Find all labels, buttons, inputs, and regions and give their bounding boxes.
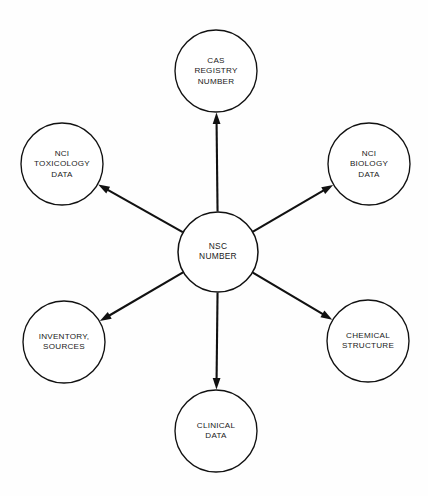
- node-nci-biology-data[interactable]: NCIBIOLOGYDATA: [328, 123, 410, 205]
- node-nsc-number-label-line-2: NUMBER: [199, 251, 237, 261]
- edge-nsc-to-clinical-shaft: [217, 292, 218, 379]
- edge-nsc-to-inventory-arrowhead: [100, 312, 112, 321]
- edge-nsc-to-toxicology: [98, 184, 183, 232]
- node-nsc-number[interactable]: NSCNUMBER: [178, 212, 258, 292]
- node-chemical-structure-label-line-2: STRUCTURE: [342, 341, 395, 350]
- diagram-canvas: NSCNUMBERCASREGISTRYNUMBERNCITOXICOLOGYD…: [0, 0, 428, 496]
- node-chemical-structure[interactable]: CHEMICALSTRUCTURE: [327, 300, 409, 382]
- node-inventory-sources-label-line-1: INVENTORY,: [39, 332, 90, 341]
- node-nci-biology-data-label-line-3: DATA: [358, 170, 380, 179]
- node-cas-registry-number-label-line-3: NUMBER: [198, 77, 235, 86]
- edge-nsc-to-clinical: [213, 292, 221, 389]
- node-clinical-data[interactable]: CLINICALDATA: [175, 390, 257, 472]
- edge-nsc-to-cas-shaft: [217, 122, 218, 211]
- node-clinical-data-label-line-2: DATA: [205, 431, 227, 440]
- node-nci-biology-data-label-line-1: NCI: [362, 149, 377, 158]
- edge-nsc-to-inventory-shaft: [108, 272, 183, 316]
- edge-nsc-to-toxicology-arrowhead: [98, 184, 110, 193]
- node-inventory-sources-label-line-2: SOURCES: [43, 342, 85, 351]
- diagram-svg: NSCNUMBERCASREGISTRYNUMBERNCITOXICOLOGYD…: [0, 0, 428, 496]
- edge-nsc-to-biology-arrowhead: [321, 185, 333, 194]
- node-chemical-structure-label-line-1: CHEMICAL: [346, 331, 390, 340]
- node-nci-toxicology-data-label-line-1: NCI: [55, 149, 70, 158]
- edge-nsc-to-cas: [213, 112, 221, 211]
- edge-nsc-to-biology-shaft: [253, 190, 325, 232]
- node-cas-registry-number-label-line-1: CAS: [207, 56, 225, 65]
- edge-nsc-to-cas-arrowhead: [213, 112, 221, 124]
- node-nci-biology-data-label-line-2: BIOLOGY: [350, 159, 389, 168]
- edge-nsc-to-clinical-arrowhead: [213, 378, 221, 390]
- node-nci-toxicology-data-label-line-3: DATA: [51, 170, 73, 179]
- node-cas-registry-number-label-line-2: REGISTRY: [194, 66, 238, 75]
- nodes-layer: NSCNUMBERCASREGISTRYNUMBERNCITOXICOLOGYD…: [21, 30, 410, 472]
- node-inventory-sources[interactable]: INVENTORY,SOURCES: [23, 301, 105, 383]
- node-nsc-number-label-line-1: NSC: [209, 241, 227, 251]
- edge-nsc-to-inventory: [100, 272, 183, 321]
- edge-nsc-to-chemical: [253, 273, 332, 320]
- edge-nsc-to-chemical-shaft: [253, 273, 324, 315]
- node-nci-toxicology-data-label-line-2: TOXICOLOGY: [34, 159, 90, 168]
- edge-nsc-to-chemical-arrowhead: [320, 311, 332, 320]
- node-nci-toxicology-data[interactable]: NCITOXICOLOGYDATA: [21, 123, 103, 205]
- edge-nsc-to-toxicology-shaft: [107, 189, 183, 232]
- edge-nsc-to-biology: [253, 185, 333, 232]
- node-clinical-data-label-line-1: CLINICAL: [197, 421, 236, 430]
- node-cas-registry-number[interactable]: CASREGISTRYNUMBER: [175, 30, 257, 112]
